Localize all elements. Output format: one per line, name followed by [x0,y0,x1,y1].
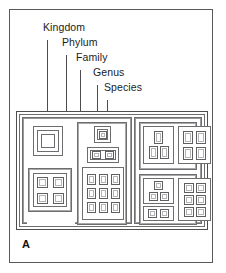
kingdom-right-inner [135,118,201,223]
family-left-lower-inner [29,169,71,211]
genus-rb-3 [181,181,208,218]
genus-rb-2 [146,208,171,219]
species-square [105,151,114,159]
species-nested-ring [41,134,55,148]
species-square [196,131,206,144]
phylum-left-b-inner [78,123,126,224]
genus-single [97,129,108,140]
taxonomy-diagram [16,111,208,230]
family-nested-ring [33,126,63,156]
genus-rt-2 [181,129,208,161]
species-square [183,131,193,144]
species-square [99,174,108,185]
species-square [111,188,120,199]
label-group: Kingdom Phylum Family Genus Species [10,10,214,110]
genus-left-lower [33,173,67,207]
family-rt-1 [143,126,174,164]
label-kingdom: Kingdom [43,21,85,33]
phylum-right-bottom [139,174,197,225]
species-square [53,177,64,188]
species-square [184,195,194,205]
species-square [87,188,96,199]
family-rb-3 [178,178,211,221]
species-square [111,174,120,185]
figure-frame: Kingdom Phylum Family Genus Species [9,9,213,263]
species-square [99,202,108,213]
species-square [87,174,96,185]
species-square [183,147,193,160]
species-square [154,131,163,144]
species-square [149,146,158,159]
label-species: Species [104,81,142,93]
kingdom-left [22,117,132,224]
species-square [53,193,64,204]
leader-line-phylum [66,55,67,111]
family-rt-2 [178,126,211,164]
genus-nine [85,170,121,217]
kingdom-right [134,117,202,224]
family-single [94,126,111,143]
label-genus: Genus [93,66,124,78]
family-rb-2 [143,206,174,221]
panel-letter: A [22,238,30,250]
species-square [196,195,206,205]
phylum-right-top [139,122,197,170]
family-nine [82,167,124,220]
species-square [196,147,206,160]
species-square [196,207,206,217]
genus-rb-1 [146,180,171,202]
species-square [99,188,108,199]
kingdom-outer-boundary [19,114,205,227]
family-rb-1 [143,178,174,204]
species-square [99,131,107,139]
phylum-right-bottom-inner [140,175,196,224]
species-square [87,202,96,213]
species-square [149,192,158,201]
phylum-right-top-inner [140,123,196,169]
kingdom-left-inner [23,118,131,223]
phylum-left-a [27,122,75,225]
species-square [184,183,194,193]
species-square [154,181,163,190]
genus-pair [90,150,116,160]
species-square [37,177,48,188]
species-square [160,146,169,159]
phylum-left-b [77,122,127,225]
species-square [92,151,101,159]
species-square [148,209,157,218]
family-pair [87,147,119,163]
species-square [196,183,206,193]
species-square [160,209,169,218]
label-family: Family [76,51,108,63]
label-phylum: Phylum [62,36,98,48]
genus-rt-1 [146,129,171,161]
species-square [111,202,120,213]
leader-line-kingdom [47,40,48,111]
species-square [37,193,48,204]
family-left-lower [28,168,72,212]
species-square [160,192,169,201]
species-square [184,207,194,217]
